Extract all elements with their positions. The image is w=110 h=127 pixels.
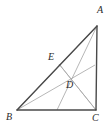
vertex-label-a: A: [97, 5, 103, 15]
cevian-b-to-ac: [17, 65, 95, 110]
vertex-label-b: B: [6, 112, 12, 122]
point-label-e: E: [48, 52, 54, 62]
segment-e-to-c-base: [59, 64, 96, 110]
geometry-canvas: [0, 0, 110, 127]
triangle-side-ab: [17, 26, 97, 110]
cevian-a-to-bc: [57, 26, 97, 110]
triangle-side-ca: [96, 26, 97, 110]
geometry-figure: A B C D E: [0, 0, 110, 127]
point-label-d: D: [66, 80, 73, 90]
vertex-label-c: C: [92, 113, 99, 123]
